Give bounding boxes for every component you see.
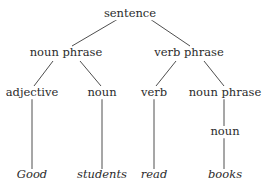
edge-verbphrase-verb (156, 61, 176, 86)
node-verb-phrase: verb phrase (153, 47, 225, 59)
node-verb: verb (140, 87, 168, 99)
edge-nounphrase-adjective (34, 61, 53, 86)
leaf-good: Good (16, 169, 48, 181)
edge-sentence-verbphrase (150, 19, 190, 46)
leaf-students: students (76, 169, 128, 181)
node-noun-2: noun (209, 126, 240, 138)
node-adjective: adjective (5, 87, 60, 99)
node-noun-phrase-2: noun phrase (188, 87, 263, 99)
edge-verbphrase-nounphrase (204, 61, 224, 86)
edge-sentence-nounphrase (72, 19, 118, 46)
node-noun: noun (86, 87, 117, 99)
leaf-read: read (140, 169, 169, 181)
leaf-books: books (207, 169, 243, 181)
node-noun-phrase: noun phrase (29, 47, 104, 59)
node-sentence: sentence (103, 8, 157, 20)
edge-nounphrase-noun (80, 61, 101, 86)
